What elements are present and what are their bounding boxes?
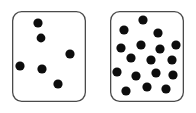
dot [65,49,74,58]
dot-comparison-figure [0,0,196,113]
dot [119,25,128,34]
dot [168,70,177,79]
dot [138,15,147,24]
dot [37,64,46,73]
dot [15,61,24,70]
dot [53,79,62,88]
sparse-dot-panel [13,12,86,102]
dot [155,44,164,53]
dense-dot-panel [111,12,184,102]
dot [37,34,46,43]
dot [171,40,180,49]
dot [33,18,42,27]
dot [112,67,121,76]
dot [126,53,135,62]
dot [153,28,162,37]
dot [146,55,155,64]
dot [121,86,130,95]
dot [116,43,125,52]
stimulus-canvas [0,0,196,113]
dot [161,84,170,93]
dot [142,82,151,91]
left-panel-frame [13,12,86,102]
dot [136,40,145,49]
dot [151,68,160,77]
dot [131,71,140,80]
dot [167,55,176,64]
